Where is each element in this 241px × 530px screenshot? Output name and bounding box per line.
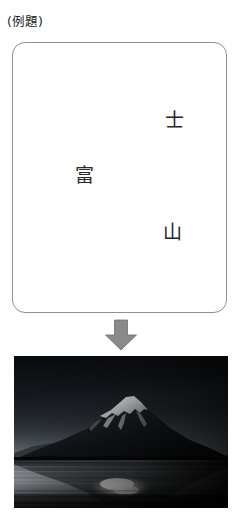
mount-fuji-illustration xyxy=(14,356,228,508)
kanji-token-2[interactable]: 富 xyxy=(75,166,94,185)
page-title: (例題) xyxy=(7,13,43,30)
scrambled-kanji-panel: 士 富 山 xyxy=(12,42,227,313)
kanji-token-3[interactable]: 山 xyxy=(163,223,182,242)
down-arrow xyxy=(104,319,138,351)
mount-fuji-photo xyxy=(14,356,228,508)
down-arrow-icon xyxy=(104,319,138,351)
kanji-token-1[interactable]: 士 xyxy=(165,111,184,130)
exercise-page: (例題) 士 富 山 xyxy=(0,0,241,530)
